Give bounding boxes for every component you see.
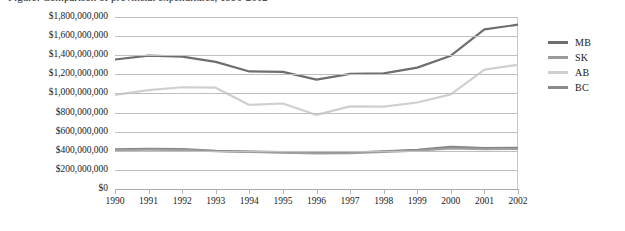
chart-legend: MBSKABBC (548, 35, 591, 95)
y-axis-tick-label: $200,000,000 (56, 165, 108, 175)
x-axis-tick-label: 1994 (240, 197, 259, 207)
x-axis-tick-mark (417, 189, 418, 194)
series-line-ab (115, 65, 518, 115)
x-axis-tick-label: 1990 (106, 197, 125, 207)
y-axis: $0$200,000,000$400,000,000$600,000,000$8… (0, 17, 112, 189)
gridline (115, 132, 518, 133)
x-axis-tick-label: 2002 (509, 197, 528, 207)
x-axis-tick-label: 1992 (173, 197, 192, 207)
legend-item-label: MB (575, 38, 591, 48)
x-axis-tick-mark (283, 189, 284, 194)
line-chart-figure: Figure: Comparison of provincial expendi… (0, 0, 625, 231)
legend-item-label: BC (575, 83, 589, 93)
gridline (115, 93, 518, 94)
gridline (115, 113, 518, 114)
gridline (115, 74, 518, 75)
plot-area (115, 17, 518, 189)
legend-color-swatch (548, 86, 568, 89)
legend-color-swatch (548, 41, 568, 44)
x-axis-tick-mark (115, 189, 116, 194)
x-axis-tick-label: 1999 (408, 197, 427, 207)
y-axis-tick-label: $1,000,000,000 (49, 89, 108, 99)
plot-wrapper: $0$200,000,000$400,000,000$600,000,000$8… (0, 9, 625, 231)
legend-item-sk[interactable]: SK (548, 50, 591, 65)
series-lines (115, 17, 518, 189)
y-axis-tick-label: $1,400,000,000 (49, 50, 108, 60)
x-axis-tick-mark (384, 189, 385, 194)
figure-caption-clipped: Figure: Comparison of provincial expendi… (0, 0, 625, 9)
y-axis-tick-label: $800,000,000 (56, 108, 108, 118)
gridline (115, 55, 518, 56)
y-axis-tick-label: $1,800,000,000 (49, 12, 108, 22)
x-axis-tick-mark (518, 189, 519, 194)
series-line-bc (115, 25, 518, 80)
y-axis-tick-label: $1,200,000,000 (49, 70, 108, 80)
legend-item-ab[interactable]: AB (548, 65, 591, 80)
x-axis-tick-mark (249, 189, 250, 194)
x-axis-tick-label: 1995 (273, 197, 292, 207)
x-axis-tick-label: 1993 (206, 197, 225, 207)
legend-color-swatch (548, 56, 568, 59)
y-axis-tick-label: $600,000,000 (56, 127, 108, 137)
x-axis-tick-mark (317, 189, 318, 194)
x-axis-tick-label: 2001 (475, 197, 494, 207)
legend-item-label: AB (575, 68, 590, 78)
y-axis-tick-label: $400,000,000 (56, 146, 108, 156)
y-axis-tick-label: $1,600,000,000 (49, 31, 108, 41)
y-axis-tick-label: $0 (99, 184, 109, 194)
legend-item-bc[interactable]: BC (548, 80, 591, 95)
gridline (115, 36, 518, 37)
x-axis-tick-mark (350, 189, 351, 194)
legend-item-mb[interactable]: MB (548, 35, 591, 50)
gridline (115, 170, 518, 171)
gridline (115, 151, 518, 152)
x-axis-tick-label: 1996 (307, 197, 326, 207)
x-axis-tick-mark (451, 189, 452, 194)
x-axis-tick-mark (216, 189, 217, 194)
x-axis-tick-mark (149, 189, 150, 194)
figure-caption-text: Figure: Comparison of provincial expendi… (8, 0, 268, 3)
x-axis: 1990199119921993199419951996199719981999… (115, 189, 518, 219)
legend-item-label: SK (575, 53, 588, 63)
x-axis-tick-label: 1998 (374, 197, 393, 207)
legend-color-swatch (548, 71, 568, 74)
x-axis-tick-mark (182, 189, 183, 194)
x-axis-tick-label: 1997 (341, 197, 360, 207)
x-axis-tick-label: 2000 (441, 197, 460, 207)
gridline (115, 17, 518, 18)
x-axis-tick-label: 1991 (139, 197, 158, 207)
x-axis-tick-mark (484, 189, 485, 194)
